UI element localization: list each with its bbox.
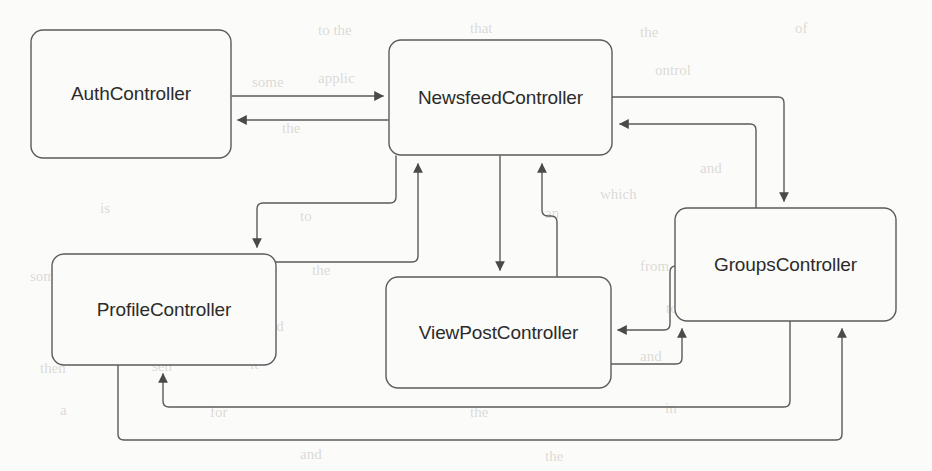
node-box-profile[interactable] [52, 254, 276, 365]
edge-newsfeed-to-profile [257, 156, 396, 247]
node-box-newsfeed[interactable] [389, 40, 612, 155]
diagram-svg [0, 0, 932, 471]
nodes-layer [31, 30, 896, 388]
edge-newsfeed-to-groups [612, 97, 784, 201]
edge-viewpost-to-newsfeed [542, 164, 557, 277]
edge-groups-to-newsfeed [620, 124, 756, 208]
node-box-auth[interactable] [31, 30, 231, 158]
node-box-viewpost[interactable] [386, 277, 611, 388]
edge-groups-to-viewpost [618, 266, 676, 330]
diagram-canvas: to thethattheofsomeapplica numontroltheu… [0, 0, 932, 471]
edge-viewpost-to-groups [611, 329, 682, 364]
node-box-groups[interactable] [675, 208, 896, 321]
